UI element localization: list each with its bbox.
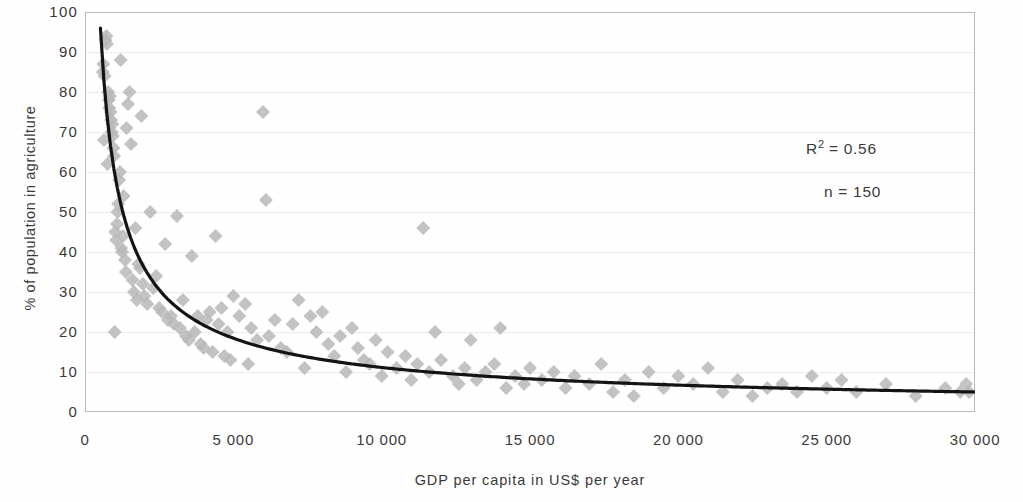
data-point-marker (642, 365, 656, 379)
chart-figure: % of population in agriculture 010203040… (0, 0, 1023, 502)
data-points (96, 29, 975, 403)
data-point-marker (416, 221, 430, 235)
x-axis-tick-labels: 05 00010 00015 00020 00025 00030 000 (0, 432, 1023, 456)
data-point-marker (410, 357, 424, 371)
y-tick-label: 100 (32, 4, 78, 19)
data-point-marker (114, 53, 128, 67)
x-tick-label: 0 (80, 432, 89, 447)
data-point-marker (547, 365, 561, 379)
data-point-marker (805, 369, 819, 383)
y-tick-label: 50 (32, 204, 78, 219)
data-point-marker (381, 345, 395, 359)
data-point-marker (464, 333, 478, 347)
data-point-marker (428, 325, 442, 339)
data-point-marker (398, 349, 412, 363)
data-point-marker (241, 357, 255, 371)
data-point-marker (351, 341, 365, 355)
data-point-marker (303, 309, 317, 323)
y-tick-label: 80 (32, 84, 78, 99)
data-point-marker (594, 357, 608, 371)
data-point-marker (226, 289, 240, 303)
y-tick-label: 30 (32, 284, 78, 299)
data-point-marker (209, 229, 223, 243)
x-tick-label: 30 000 (950, 432, 1001, 447)
data-point-marker (731, 373, 745, 387)
y-tick-label: 70 (32, 124, 78, 139)
data-point-marker (499, 381, 513, 395)
y-tick-label: 0 (32, 404, 78, 419)
data-point-marker (143, 205, 157, 219)
y-axis-tick-labels: 0102030405060708090100 (26, 0, 78, 430)
x-tick-label: 15 000 (505, 432, 556, 447)
data-point-marker (835, 373, 849, 387)
data-point-marker (333, 329, 347, 343)
r-squared-exponent: 2 (818, 138, 824, 150)
r-squared-annotation: R2 = 0.56 (806, 138, 877, 158)
data-point-marker (176, 293, 190, 307)
data-point-marker (214, 301, 228, 315)
y-tick-label: 60 (32, 164, 78, 179)
trend-line (100, 28, 975, 392)
data-point-marker (369, 333, 383, 347)
data-point-marker (375, 369, 389, 383)
data-point-marker (259, 193, 273, 207)
data-point-marker (434, 353, 448, 367)
data-point-marker (256, 105, 270, 119)
data-point-marker (232, 309, 246, 323)
data-point-marker (404, 373, 418, 387)
y-tick-label: 40 (32, 244, 78, 259)
data-point-marker (185, 249, 199, 263)
scatter-plot-svg (85, 12, 975, 412)
plot-area (85, 12, 975, 412)
data-point-marker (123, 85, 137, 99)
data-point-marker (849, 385, 863, 399)
x-tick-label: 5 000 (213, 432, 255, 447)
data-point-marker (170, 209, 184, 223)
data-point-marker (108, 325, 122, 339)
data-point-marker (124, 137, 138, 151)
data-point-marker (286, 317, 300, 331)
data-point-marker (508, 369, 522, 383)
x-tick-label: 20 000 (653, 432, 704, 447)
data-point-marker (268, 313, 282, 327)
data-point-marker (671, 369, 685, 383)
x-tick-label: 25 000 (801, 432, 852, 447)
x-axis-title: GDP per capita in US$ per year (85, 472, 975, 488)
y-tick-label: 10 (32, 364, 78, 379)
data-point-marker (121, 97, 135, 111)
data-point-marker (627, 389, 641, 403)
x-tick-label: 10 000 (356, 432, 407, 447)
data-point-marker (746, 389, 760, 403)
data-point-marker (262, 329, 276, 343)
y-tick-label: 90 (32, 44, 78, 59)
data-point-marker (315, 305, 329, 319)
data-point-marker (158, 237, 172, 251)
data-point-marker (487, 357, 501, 371)
data-point-marker (309, 325, 323, 339)
data-point-marker (559, 381, 573, 395)
y-tick-label: 20 (32, 324, 78, 339)
data-point-marker (321, 337, 335, 351)
data-point-marker (606, 385, 620, 399)
data-point-marker (238, 297, 252, 311)
data-point-marker (134, 109, 148, 123)
data-point-marker (582, 377, 596, 391)
data-point-marker (339, 365, 353, 379)
data-point-marker (292, 293, 306, 307)
sample-size-annotation: n = 150 (824, 183, 881, 201)
